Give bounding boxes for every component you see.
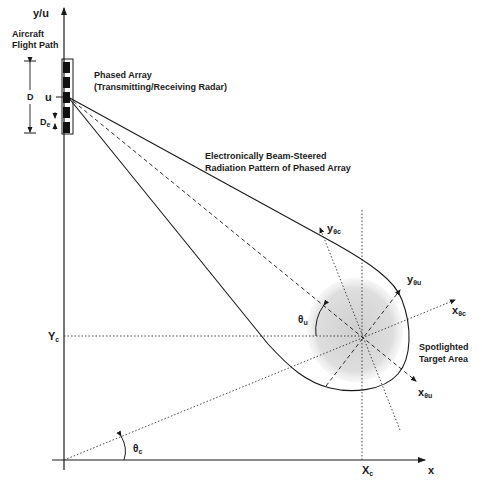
phased-array xyxy=(62,59,73,134)
x-axis-label: x xyxy=(428,464,435,476)
beam-label-line1: Electronically Beam-Steered xyxy=(205,151,327,161)
array-label-line2: (Transmitting/Receiving Radar) xyxy=(94,82,227,92)
target-label-line1: Spotlighted xyxy=(419,342,469,352)
theta-u-label: θu xyxy=(298,314,308,326)
x-theta-u-axis xyxy=(68,97,416,381)
x-theta-u-label: xθu xyxy=(418,386,432,399)
array-length-dimension: D xyxy=(24,61,36,133)
y-theta-c-label: yθc xyxy=(327,222,341,235)
yc-label: Yc xyxy=(48,330,59,343)
array-element xyxy=(63,62,70,73)
array-label-line1: Phased Array xyxy=(94,70,152,80)
flight-path-label-line1: Aircraft xyxy=(12,29,44,39)
x-theta-c-axis xyxy=(64,300,455,460)
y-theta-u-label: yθu xyxy=(407,273,421,286)
u-label: u xyxy=(45,91,52,103)
radar-geometry-diagram: D De u θc θu y/u x Yc Xc yθc yθu xθc xθu… xyxy=(0,0,482,490)
theta-c-arc xyxy=(121,436,125,460)
array-element xyxy=(63,77,70,88)
x-theta-c-label: xθc xyxy=(452,304,466,317)
element-spacing-dimension: De xyxy=(40,112,55,130)
flight-path-label-line2: Flight Path xyxy=(12,40,59,50)
element-spacing-label: De xyxy=(40,117,51,128)
xc-label: Xc xyxy=(362,464,373,477)
array-length-label: D xyxy=(27,92,34,102)
array-element xyxy=(63,107,70,118)
y-axis-label: y/u xyxy=(33,7,49,19)
beam-label-line2: Radiation Pattern of Phased Array xyxy=(205,163,351,173)
array-element xyxy=(63,122,70,133)
array-element xyxy=(63,92,70,103)
theta-c-label: θc xyxy=(133,443,142,455)
target-label-line2: Target Area xyxy=(419,354,469,364)
target-area-shading xyxy=(307,278,403,382)
